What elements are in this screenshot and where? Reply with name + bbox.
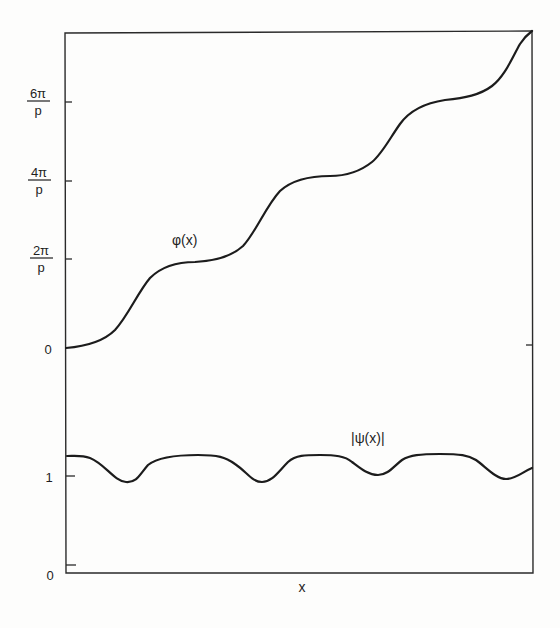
y-ticks-left — [65, 102, 76, 565]
chart-canvas: 6π p 4π p 2π p 0 1 0 φ(x) |ψ(x)| x — [0, 0, 560, 628]
tick-label-1: 1 — [45, 470, 52, 485]
phi-curve — [66, 31, 532, 348]
tick-4pi-denominator: p — [35, 182, 42, 197]
x-axis-label: x — [299, 579, 306, 595]
tick-label-0-upper: 0 — [44, 342, 51, 357]
tick-2pi-denominator: p — [37, 260, 44, 275]
tick-label-0-lower: 0 — [46, 568, 53, 583]
tick-4pi-numerator: 4π — [31, 165, 47, 180]
tick-label-4pi-p: 4π p — [28, 165, 51, 197]
tick-label-6pi-p: 6π p — [27, 86, 50, 118]
psi-curve-label: |ψ(x)| — [351, 430, 385, 446]
tick-2pi-numerator: 2π — [33, 243, 49, 258]
tick-6pi-denominator: p — [34, 103, 41, 118]
phi-curve-label: φ(x) — [172, 232, 197, 248]
psi-curve — [67, 454, 532, 482]
tick-6pi-numerator: 6π — [30, 86, 46, 101]
tick-label-2pi-p: 2π p — [30, 243, 53, 275]
